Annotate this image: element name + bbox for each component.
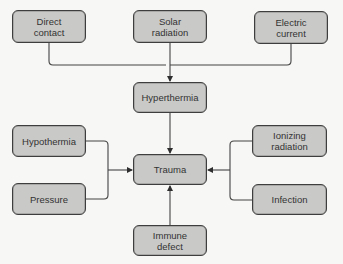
- node-electric-current: Electric current: [254, 11, 328, 44]
- edge-direct-contact: [49, 43, 166, 65]
- node-hyperthermia: Hyperthermia: [133, 82, 207, 113]
- node-trauma: Trauma: [133, 154, 207, 185]
- node-hypothermia: Hypothermia: [12, 125, 86, 157]
- node-ionizing-radiation: Ionizing radiation: [252, 125, 327, 157]
- node-pressure: Pressure: [12, 183, 86, 215]
- edge-electric-current: [170, 44, 291, 65]
- node-direct-contact: Direct contact: [12, 10, 86, 43]
- node-immune-defect: Immune defect: [133, 225, 207, 256]
- node-infection: Infection: [252, 184, 327, 215]
- node-solar-radiation: Solar radiation: [133, 10, 207, 43]
